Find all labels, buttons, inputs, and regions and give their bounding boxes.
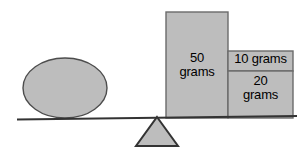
weight-label-20: 20grams <box>228 74 293 101</box>
weight-label-10: 10 grams <box>228 52 293 66</box>
weight-label-10-line1: 10 grams <box>234 51 287 66</box>
weight-label-50: 50grams <box>166 51 228 78</box>
weight-label-50-line2: grams <box>179 64 214 79</box>
weight-label-20-line2: grams <box>243 87 278 102</box>
unknown-mass-ellipse <box>23 58 107 118</box>
fulcrum-triangle <box>136 117 178 146</box>
balance-scale-diagram: 50grams 10 grams 20grams <box>0 0 307 159</box>
